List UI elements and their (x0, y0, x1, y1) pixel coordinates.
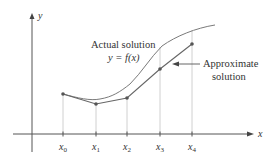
approx-pointer-arrow-icon (172, 62, 179, 67)
point-1 (94, 102, 98, 106)
point-3 (158, 67, 162, 71)
actual-solution-equation: y = f(x) (107, 52, 140, 64)
tick-label-x4: x4 (187, 141, 196, 154)
approximate-solution-label: Approximate (203, 58, 259, 69)
tick-label-x1: x1 (91, 141, 100, 154)
y-axis-label: y (37, 10, 43, 21)
point-0 (61, 92, 65, 96)
actual-solution-label: Actual solution (91, 39, 156, 50)
approximate-solution-label-2: solution (212, 71, 247, 82)
x-axis-label: x (257, 128, 263, 139)
tick-labels: x0 x1 x2 x3 x4 (58, 141, 196, 154)
point-4 (190, 42, 194, 46)
euler-diagram: y x x0 x1 x2 x3 x4 Actual solution y = f… (0, 0, 272, 156)
y-axis-arrow-icon (30, 13, 35, 19)
point-2 (125, 96, 129, 100)
x-axis-arrow-icon (247, 132, 254, 137)
tick-label-x3: x3 (155, 141, 164, 154)
tick-label-x0: x0 (58, 141, 67, 154)
tick-label-x2: x2 (122, 141, 131, 154)
